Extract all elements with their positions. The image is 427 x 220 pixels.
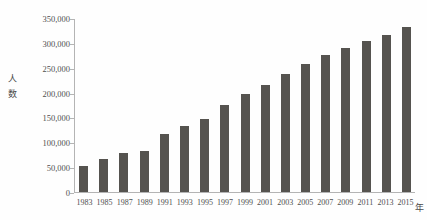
bar: [119, 153, 128, 192]
y-axis-tick-label: 50,000: [14, 163, 70, 173]
x-axis-unit-label: 年: [415, 201, 424, 214]
x-axis-tick-label: 2013: [376, 198, 395, 212]
y-axis-tick-label: 250,000: [14, 64, 70, 74]
y-axis-tick-label: 350,000: [14, 14, 70, 24]
x-axis-tick-label: 1999: [236, 198, 255, 212]
y-axis-tick-mark: [70, 19, 74, 20]
y-axis-tick-mark: [70, 193, 74, 194]
bar: [402, 27, 411, 192]
bar-series: [75, 19, 415, 192]
bar: [160, 134, 169, 192]
y-axis-tick-mark: [70, 118, 74, 119]
x-axis-tick-label: 2011: [356, 198, 375, 212]
x-axis-tick-label: 1985: [95, 198, 114, 212]
bar: [341, 48, 350, 192]
y-axis-tick-labels: 050,000100,000150,000200,000250,000300,0…: [14, 0, 70, 220]
x-axis-tick-label: 2001: [256, 198, 275, 212]
bar: [241, 94, 250, 192]
x-axis-tick-label: 1995: [195, 198, 214, 212]
x-axis-tick-label: 1993: [175, 198, 194, 212]
bar: [382, 35, 391, 192]
x-axis-tick-label: 1987: [115, 198, 134, 212]
bar-chart: 人 数 050,000100,000150,000200,000250,0003…: [0, 0, 427, 220]
y-axis-tick-label: 300,000: [14, 39, 70, 49]
y-axis-tick-mark: [70, 69, 74, 70]
bar: [281, 74, 290, 192]
y-axis-tick-mark: [70, 44, 74, 45]
bar: [220, 105, 229, 192]
x-axis-tick-label: 2015: [396, 198, 415, 212]
y-axis-tick-mark: [70, 94, 74, 95]
y-axis-tick-label: 200,000: [14, 89, 70, 99]
bar: [362, 41, 371, 192]
x-axis-tick-label: 1989: [135, 198, 154, 212]
bar: [200, 119, 209, 192]
y-axis-tick-mark: [70, 168, 74, 169]
y-axis-tick-label: 150,000: [14, 113, 70, 123]
bar: [180, 126, 189, 192]
plot-area: [74, 19, 415, 193]
x-axis-tick-label: 1983: [75, 198, 94, 212]
bar: [301, 64, 310, 192]
x-axis-tick-labels: 1983198519871989199119931995199719992001…: [75, 198, 415, 212]
x-axis-line: [74, 192, 415, 193]
bar: [99, 159, 108, 192]
x-axis-tick-label: 2009: [336, 198, 355, 212]
y-axis-tick-label: 0: [14, 188, 70, 198]
bar: [79, 166, 88, 192]
x-axis-tick-label: 1991: [155, 198, 174, 212]
bar: [321, 55, 330, 192]
x-axis-tick-label: 2003: [276, 198, 295, 212]
bar: [261, 85, 270, 192]
y-axis-tick-mark: [70, 143, 74, 144]
x-axis-tick-label: 2007: [316, 198, 335, 212]
x-axis-tick-label: 1997: [215, 198, 234, 212]
y-axis-tick-label: 100,000: [14, 138, 70, 148]
bar: [140, 151, 149, 192]
x-axis-tick-label: 2005: [296, 198, 315, 212]
